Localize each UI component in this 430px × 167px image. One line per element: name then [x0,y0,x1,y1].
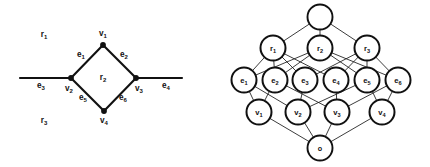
lattice-node-r3: r3 [355,36,380,61]
lattice-node-v4: v4 [370,100,395,125]
lattice-link-top-r1 [283,24,309,41]
graph-vertex-v2 [68,75,74,81]
graph-vertex-v1 [100,42,106,48]
lattice-node-top [308,5,333,30]
graph-edge-e1 [71,45,103,78]
graph-vertex-v3 [133,75,139,81]
lattice-node-e4: e4 [324,68,349,93]
lattice-nodes: r1r2r3e1e2e3e4e5e6v1v2v3v4o [232,5,411,161]
graph-label-r2: r2 [100,73,107,83]
lattice-node-circle-top [308,5,333,30]
graph-label-v3: v3 [135,84,144,94]
graph-label-r3: r3 [41,116,48,126]
graph-label-e6: e6 [119,93,128,103]
lattice-node-e1: e1 [232,68,257,93]
lattice-node-e5: e5 [355,68,380,93]
lattice-node-e6: e6 [386,68,411,93]
lattice-node-e2: e2 [263,68,288,93]
lattice-node-e3: e3 [293,68,318,93]
graph-label-e3: e3 [37,81,46,91]
lattice-node-label-zero: o [318,144,323,153]
graph-label-v4: v4 [100,116,109,126]
lattice-link-e1-v1 [249,91,253,100]
lattice-node-r2: r2 [308,36,333,61]
lattice-node-r1: r1 [261,36,286,61]
graph-label-v1: v1 [99,29,108,39]
figure-canvas: v1v2v3v4e1e2e3e4e5e6r1r2r3 r1r2r3e1e2e3e… [0,0,430,167]
figure-root: v1v2v3v4e1e2e3e4e5e6r1r2r3 r1r2r3e1e2e3e… [0,0,430,167]
lattice-link-top-r3 [330,24,356,41]
graph-label-e2: e2 [120,50,129,60]
lattice-node-v3: v3 [325,100,350,125]
graph-label-e1: e1 [77,50,86,60]
lattice-link-r1-e1 [252,57,264,70]
lattice-node-v1: v1 [247,100,272,125]
lattice-link-r3-e6 [376,57,390,71]
lattice-link-v3-zero [325,123,331,136]
graph-label-r1: r1 [41,30,48,40]
graph-label-v2: v2 [65,84,74,94]
graph-label-e4: e4 [162,81,171,91]
lattice-link-e6-v4 [388,91,393,101]
lattice-node-zero: o [308,136,333,161]
lattice-node-v2: v2 [286,100,311,125]
graph-vertex-v4 [101,108,107,114]
lattice-link-v2-zero [305,123,314,138]
graph-edge-e5 [71,78,104,111]
